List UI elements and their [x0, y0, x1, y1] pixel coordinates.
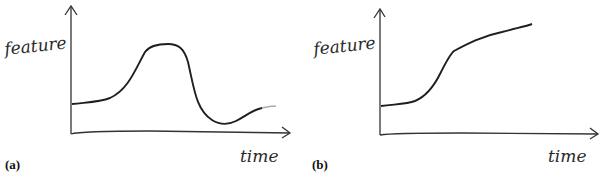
panel-a: feature time (a)	[0, 0, 302, 178]
y-axis-label: feature	[310, 33, 376, 60]
feature-curve-faded-tail	[262, 106, 276, 108]
x-axis-label: time	[548, 146, 586, 166]
panel-b-plot: feature time	[302, 0, 604, 178]
feature-curve-persistent	[381, 24, 532, 106]
x-axis	[71, 131, 290, 134]
feature-curve-transient	[72, 44, 262, 124]
x-axis-label: time	[240, 146, 278, 166]
panel-label-a: (a)	[5, 157, 20, 173]
y-axis-label: feature	[1, 33, 67, 60]
x-axis	[380, 133, 598, 135]
panel-label-b: (b)	[312, 157, 328, 173]
panel-b: feature time (b)	[302, 0, 604, 178]
panel-a-plot: feature time	[0, 0, 302, 178]
